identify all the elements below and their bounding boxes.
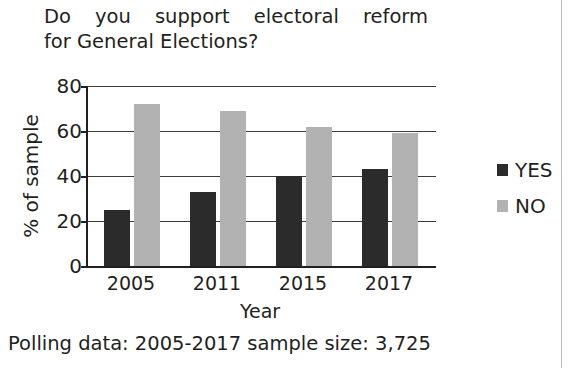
chart-title-line-1: Do you support electoral reform bbox=[44, 4, 428, 29]
x-axis-tick-labels: 2005 2011 2015 2017 bbox=[86, 272, 434, 300]
legend-swatch-yes bbox=[497, 164, 508, 176]
bar-group-2017 bbox=[354, 86, 428, 266]
x-tick-label-2015: 2015 bbox=[266, 272, 340, 294]
y-tick-label-80: 80 bbox=[42, 76, 82, 96]
y-tickmark-80 bbox=[81, 86, 88, 88]
bar-2005-yes bbox=[104, 210, 130, 266]
chart-caption: Polling data: 2005-2017 sample size: 3,7… bbox=[8, 332, 552, 355]
y-axis-tick-labels: 80 60 40 20 0 bbox=[42, 78, 82, 278]
y-axis-label: % of sample bbox=[19, 111, 43, 241]
x-tick-label-2005: 2005 bbox=[94, 272, 168, 294]
bar-2011-yes bbox=[190, 192, 216, 266]
y-tick-label-40: 40 bbox=[42, 166, 82, 186]
chart-legend: YES NO bbox=[497, 152, 567, 224]
y-tick-label-0: 0 bbox=[42, 256, 82, 276]
chart-plot-area: % of sample 80 60 40 20 0 bbox=[0, 78, 568, 278]
chart-title: Do you support electoral reform for Gene… bbox=[44, 4, 464, 54]
legend-swatch-no bbox=[497, 200, 508, 212]
bar-group-2005 bbox=[96, 86, 170, 266]
chart-figure: Do you support electoral reform for Gene… bbox=[0, 0, 568, 368]
y-tick-label-60: 60 bbox=[42, 121, 82, 141]
legend-item-no: NO bbox=[497, 188, 567, 224]
bar-2015-no bbox=[306, 127, 332, 267]
legend-item-yes: YES bbox=[497, 152, 567, 188]
plot-frame bbox=[86, 86, 436, 268]
x-tick-label-2017: 2017 bbox=[352, 272, 426, 294]
bar-2011-no bbox=[220, 111, 246, 266]
bar-group-2015 bbox=[268, 86, 342, 266]
bar-2017-no bbox=[392, 133, 418, 266]
chart-title-line-2: for General Elections? bbox=[44, 29, 464, 54]
bar-2015-yes bbox=[276, 176, 302, 266]
y-tickmark-0 bbox=[81, 266, 88, 268]
legend-label-yes: YES bbox=[515, 158, 553, 182]
bar-groups bbox=[88, 86, 436, 266]
y-tickmark-40 bbox=[81, 176, 88, 178]
x-tick-label-2011: 2011 bbox=[180, 272, 254, 294]
y-tickmark-20 bbox=[81, 221, 88, 223]
bar-2005-no bbox=[134, 104, 160, 266]
bar-2017-yes bbox=[362, 169, 388, 266]
bar-group-2011 bbox=[182, 86, 256, 266]
x-axis-label: Year bbox=[86, 300, 434, 322]
y-tickmark-60 bbox=[81, 131, 88, 133]
legend-label-no: NO bbox=[515, 194, 546, 218]
y-tick-label-20: 20 bbox=[42, 211, 82, 231]
